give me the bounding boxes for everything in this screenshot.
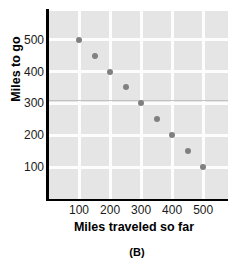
x-tick-label: 500 — [193, 203, 213, 217]
y-tick-label: 400 — [24, 65, 44, 79]
plot-area — [48, 11, 228, 199]
data-point — [185, 148, 191, 154]
x-axis-title: Miles traveled so far — [40, 220, 228, 234]
data-point — [92, 53, 98, 59]
x-tick-label: 200 — [100, 203, 120, 217]
figure-caption: (B) — [0, 246, 234, 258]
y-axis-line — [46, 9, 49, 201]
y-tick-label: 300 — [24, 96, 44, 110]
gridline-horizontal — [48, 38, 228, 41]
x-tick-label: 400 — [162, 203, 182, 217]
data-point — [107, 69, 113, 75]
y-tick-label: 200 — [24, 128, 44, 142]
gridline-horizontal — [48, 134, 228, 137]
y-tick-label: 500 — [24, 33, 44, 47]
x-axis-line — [46, 199, 228, 202]
data-point — [76, 37, 82, 43]
y-axis-tick-labels: 100200300400500 — [12, 11, 46, 199]
data-point — [154, 116, 160, 122]
x-axis-tick-labels: 100200300400500 — [48, 203, 228, 219]
x-tick-label: 100 — [69, 203, 89, 217]
gridline-horizontal — [48, 70, 228, 73]
scatter-plot-figure: Miles to go 100200300400500 100200300400… — [0, 0, 234, 268]
x-tick-label: 300 — [131, 203, 151, 217]
y-tick-label: 100 — [24, 160, 44, 174]
